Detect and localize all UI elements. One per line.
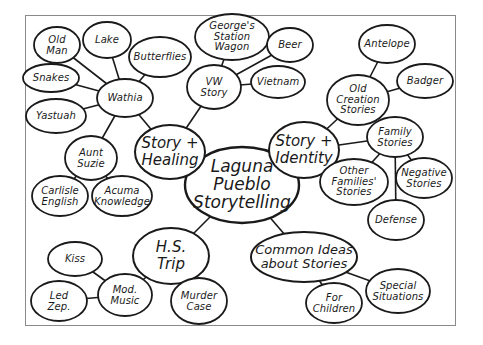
node-label-lake: Lake xyxy=(85,35,129,46)
node-label-special-situations: Special Situations xyxy=(368,281,428,302)
node-label-aunt-suzie: Aunt Suzie xyxy=(67,148,115,169)
node-label-negative-stories: Negative Stories xyxy=(398,168,450,189)
node-label-defense: Defense xyxy=(370,215,422,226)
node-label-hs-trip: H.S. Trip xyxy=(135,239,207,274)
node-label-badger: Badger xyxy=(399,76,451,87)
node-label-butterflies: Butterflies xyxy=(131,52,189,63)
node-label-beer: Beer xyxy=(269,40,311,51)
node-label-acuma-knowledge: Acuma Knowledge xyxy=(94,186,150,207)
node-label-carlisle-english: Carlisle English xyxy=(34,186,86,207)
node-label-mod-music: Mod. Music xyxy=(100,285,150,306)
node-label-led-zep: Led Zep. xyxy=(33,291,85,312)
node-label-story-identity: Story + Identity xyxy=(271,133,337,168)
node-label-old-man: Old Man xyxy=(36,35,78,56)
node-label-family-stories: Family Stories xyxy=(369,127,421,148)
node-label-snakes: Snakes xyxy=(25,73,77,84)
node-label-antelope: Antelope xyxy=(361,39,413,50)
node-label-other-families: Other Families' Stories xyxy=(322,166,386,198)
node-label-yastuah: Yastuah xyxy=(28,111,84,122)
node-label-old-creation: Old Creation Stories xyxy=(329,84,387,116)
mind-map-canvas: Laguna Pueblo StorytellingStory + Healin… xyxy=(0,0,483,345)
node-label-murder-case: Murder Case xyxy=(173,291,225,312)
node-label-georges-wagon: George's Station Wagon xyxy=(197,21,267,53)
node-label-kiss: Kiss xyxy=(50,254,100,265)
node-label-common-ideas: Common Ideas about Stories xyxy=(253,243,355,272)
node-label-wathia: Wathia xyxy=(99,93,151,104)
node-label-vw-story: VW Story xyxy=(189,77,239,98)
node-label-story-healing: Story + Healing xyxy=(137,135,203,170)
node-label-for-children: For Children xyxy=(308,293,360,314)
node-label-vietnam: Vietnam xyxy=(253,77,303,88)
